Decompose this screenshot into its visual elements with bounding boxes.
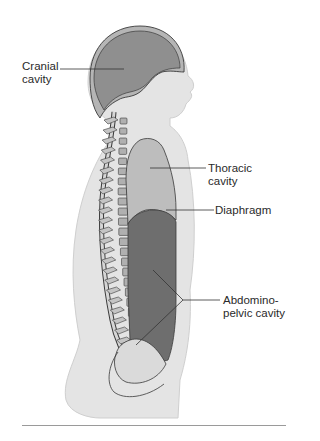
- vertebra: [118, 208, 127, 215]
- vertebra: [118, 198, 127, 205]
- label-abdominopelvic-cavity: Abdomino- pelvic cavity: [223, 294, 285, 320]
- vertebra: [118, 178, 127, 185]
- label-cranial-cavity: Cranial cavity: [22, 60, 58, 86]
- vertebra: [118, 168, 126, 175]
- divider-rule: [22, 425, 286, 426]
- vertebra: [119, 228, 129, 235]
- vertebra: [118, 188, 127, 195]
- vertebra: [119, 148, 127, 154]
- label-thoracic-cavity: Thoracic cavity: [208, 162, 252, 188]
- vertebra: [119, 138, 127, 144]
- vertebra: [120, 128, 127, 134]
- label-diaphragm: Diaphragm: [215, 204, 271, 217]
- vertebra: [118, 218, 128, 225]
- vertebra: [119, 158, 127, 165]
- vertebra: [120, 118, 127, 124]
